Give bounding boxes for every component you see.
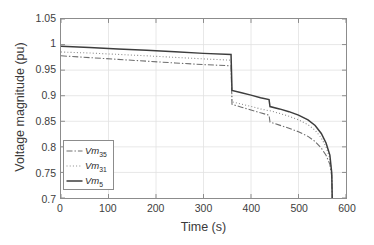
legend-item-Vm31[interactable]: Vm31 [64, 158, 113, 173]
legend-item-Vm35[interactable]: Vm35 [64, 143, 113, 158]
x-tick-label: 500 [290, 203, 308, 214]
x-tick-label: 100 [99, 203, 117, 214]
y-axis-title: Voltage magnitude (pu) [13, 7, 27, 207]
legend: Vm35 Vm31 Vm5 [63, 140, 114, 190]
legend-label-Vm5: Vm5 [83, 176, 103, 186]
legend-label-Vm31: Vm31 [83, 161, 107, 171]
y-tick-label: 0.9 [41, 90, 56, 101]
legend-line-sample-Vm31 [66, 161, 83, 171]
y-tick-label: 0.95 [36, 64, 56, 75]
y-tick-label: 1.05 [36, 13, 56, 24]
legend-item-Vm5[interactable]: Vm5 [64, 173, 113, 188]
x-tick-label: 0 [57, 203, 63, 214]
x-tick-label: 400 [243, 203, 261, 214]
figure: 0.70.750.80.850.90.9511.05 0100200300400… [0, 0, 374, 245]
x-tick-label: 300 [195, 203, 213, 214]
legend-line-sample-Vm35 [66, 146, 83, 156]
y-tick-label: 0.85 [36, 116, 56, 127]
y-tick-label: 0.75 [36, 168, 56, 179]
x-axis-tick-labels: 0100200300400500600 [0, 203, 374, 219]
legend-label-Vm35: Vm35 [83, 146, 107, 156]
y-tick-label: 1 [50, 38, 56, 49]
legend-line-sample-Vm5 [66, 176, 83, 186]
y-tick-label: 0.8 [41, 142, 56, 153]
x-tick-label: 600 [338, 203, 356, 214]
x-tick-label: 200 [147, 203, 165, 214]
x-axis-title: Time (s) [60, 220, 347, 234]
